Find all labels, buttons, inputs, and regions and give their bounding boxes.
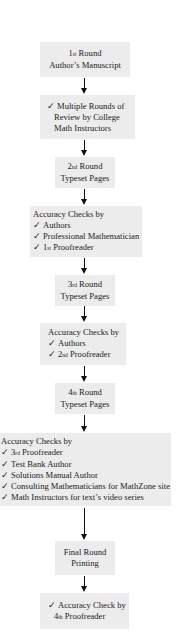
step-4th-round-typeset: 4th Round Typeset Pages [55,383,115,414]
step-1-line-1: 1st Round [40,48,130,60]
arrow-down-icon [80,258,89,274]
step-accuracy-checks-2: Accuracy Checks by ✓Authors ✓2nd Proofre… [40,323,126,365]
checkmark-icon: ✓ [48,349,56,359]
step-7-line-2: Typeset Pages [55,399,115,410]
checkmark-icon: ✓ [48,600,56,610]
step-6-item: ✓Authors [48,338,126,349]
arrow-down-icon [80,508,89,540]
step-1st-round-manuscript: 1st Round Author’s Manuscript [40,42,130,77]
checkmark-icon: ✓ [1,459,9,469]
step-4-heading: Accuracy Checks by [33,209,142,220]
checkmark-icon: ✓ [1,481,9,491]
step-review-college-instructors: ✓Multiple Rounds of Review by College Ma… [40,95,135,139]
step-3-line-2: Typeset Pages [55,173,115,184]
step-8-item: ✓Consulting Mathematicians for MathZone … [1,481,171,492]
step-5-line-2: Typeset Pages [55,291,115,302]
arrow-down-icon [80,78,89,94]
step-9-line-1: Final Round [55,547,115,558]
step-accuracy-checks-3: Accuracy Checks by ✓3rd Proofreader ✓Tes… [0,433,171,506]
checkmark-icon: ✓ [48,338,56,348]
arrow-down-icon [80,366,89,382]
step-6-item: ✓2nd Proofreader [48,349,126,361]
checkmark-icon: ✓ [47,101,55,111]
step-1-line-2: Author’s Manuscript [40,60,130,71]
step-4-item: ✓Authors [33,220,142,231]
step-7-line-1: 4th Round [55,387,115,399]
step-8-item: ✓Math Instructors for text’s video serie… [1,492,171,503]
step-9-line-2: Printing [55,558,115,569]
checkmark-icon: ✓ [33,220,41,230]
checkmark-icon: ✓ [1,470,9,480]
step-8-item: ✓Solutions Manual Author [1,470,171,481]
arrow-down-icon [80,140,89,156]
step-8-item: ✓Test Bank Author [1,459,171,470]
arrow-down-icon [80,306,89,322]
step-2nd-round-typeset: 2nd Round Typeset Pages [55,157,115,188]
step-2-line-2: Review by College [47,112,135,123]
step-4-item: ✓Professional Mathematician [33,231,142,242]
checkmark-icon: ✓ [33,231,41,241]
step-5-line-1: 3rd Round [55,279,115,291]
checkmark-icon: ✓ [1,447,9,457]
checkmark-icon: ✓ [1,492,9,502]
step-3-line-1: 2nd Round [55,161,115,173]
arrow-down-icon [80,189,89,205]
arrow-down-icon [80,576,89,592]
step-accuracy-check-4th-proofreader: ✓Accuracy Check by 4th Proofreader [40,593,129,629]
step-8-item: ✓3rd Proofreader [1,447,171,459]
step-4-item: ✓1st Proofreader [33,242,142,254]
step-10-line-2: 4th Proofreader [48,611,129,623]
step-final-round-printing: Final Round Printing [55,541,115,575]
step-2-line-1: ✓Multiple Rounds of [47,101,135,112]
step-8-heading: Accuracy Checks by [1,436,171,447]
checkmark-icon: ✓ [33,242,41,252]
step-3rd-round-typeset: 3rd Round Typeset Pages [55,275,115,306]
arrow-down-icon [80,415,89,432]
step-6-heading: Accuracy Checks by [48,327,126,338]
step-accuracy-checks-1: Accuracy Checks by ✓Authors ✓Professiona… [30,206,142,257]
step-2-line-3: Math Instructors [47,123,135,134]
step-10-line-1: ✓Accuracy Check by [48,600,129,611]
